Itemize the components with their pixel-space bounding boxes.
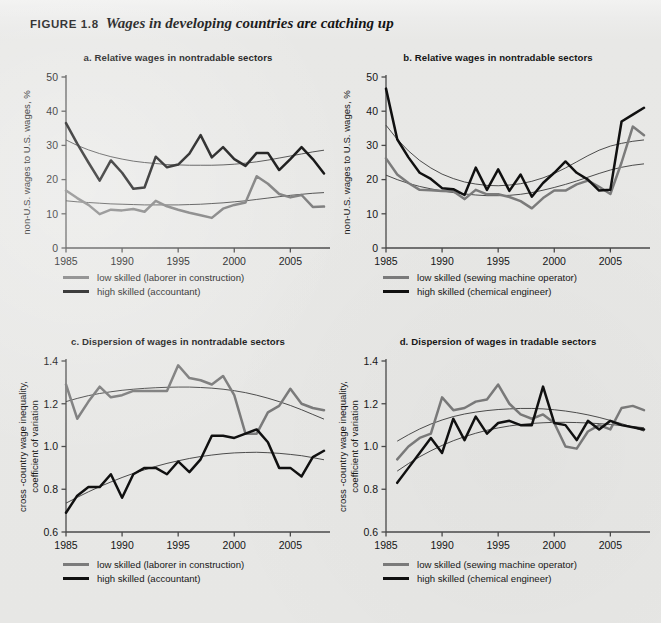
- svg-text:2000: 2000: [543, 539, 567, 551]
- svg-text:1.0: 1.0: [43, 440, 58, 452]
- legend-line-low-icon: [383, 563, 409, 566]
- svg-text:1985: 1985: [54, 255, 78, 267]
- panel-c-plot: 0.60.81.01.21.419851990199520002005cross…: [18, 347, 338, 562]
- svg-text:1990: 1990: [110, 539, 134, 551]
- svg-text:1995: 1995: [166, 539, 190, 551]
- panel-a-plot: 0102030405019851990199520002005non-U.S. …: [18, 63, 338, 278]
- svg-text:0.6: 0.6: [43, 526, 58, 538]
- panel-a: a. Relative wages in nontradable sectors…: [18, 52, 338, 322]
- panel-d-plot: 0.60.81.01.21.419851990199520002005cross…: [338, 347, 658, 562]
- svg-text:1.0: 1.0: [363, 440, 378, 452]
- panel-b-legend: low skilled (sewing machine operator) hi…: [383, 270, 577, 298]
- legend-label-low: low skilled (sewing machine operator): [417, 272, 577, 283]
- svg-text:1985: 1985: [374, 255, 398, 267]
- svg-text:2005: 2005: [279, 255, 303, 267]
- svg-text:10: 10: [46, 208, 58, 220]
- panel-c-legend: low skilled (laborer in construction) hi…: [63, 557, 244, 585]
- legend-line-high-icon: [383, 290, 409, 293]
- svg-text:1985: 1985: [374, 539, 398, 551]
- panel-b-plot: 0102030405019851990199520002005non-U.S. …: [338, 63, 658, 278]
- figure-number: FIGURE 1.8: [30, 18, 99, 30]
- svg-text:40: 40: [366, 105, 378, 117]
- svg-text:10: 10: [366, 208, 378, 220]
- svg-text:50: 50: [366, 71, 378, 83]
- legend-label-low: low skilled (laborer in construction): [97, 272, 244, 283]
- legend-item-high-skilled: high skilled (chemical engineer): [383, 284, 577, 298]
- svg-text:30: 30: [46, 139, 58, 151]
- svg-text:20: 20: [366, 173, 378, 185]
- svg-text:1990: 1990: [430, 539, 454, 551]
- svg-text:0.6: 0.6: [363, 526, 378, 538]
- svg-text:0: 0: [372, 242, 378, 254]
- legend-item-high-skilled: high skilled (accountant): [63, 284, 244, 298]
- panel-a-title: a. Relative wages in nontradable sectors: [18, 52, 338, 63]
- svg-text:non-U.S. wages to U.S. wages,: non-U.S. wages to U.S. wages, %: [21, 90, 32, 235]
- legend-line-high-icon: [63, 577, 89, 580]
- svg-text:1995: 1995: [486, 539, 510, 551]
- svg-text:2005: 2005: [279, 539, 303, 551]
- panel-d-title: d. Dispersion of wages in tradable secto…: [338, 336, 658, 347]
- svg-text:40: 40: [46, 105, 58, 117]
- panel-c: c. Dispersion of wages in nontradable se…: [18, 336, 338, 611]
- legend-line-low-icon: [63, 563, 89, 566]
- legend-line-low-icon: [63, 276, 89, 279]
- svg-text:2000: 2000: [223, 255, 247, 267]
- legend-label-high: high skilled (accountant): [97, 286, 200, 297]
- panel-b: b. Relative wages in nontradable sectors…: [338, 52, 658, 322]
- svg-text:0.8: 0.8: [43, 483, 58, 495]
- svg-text:50: 50: [46, 71, 58, 83]
- legend-line-low-icon: [383, 276, 409, 279]
- legend-item-low-skilled: low skilled (laborer in construction): [63, 557, 244, 571]
- svg-text:1995: 1995: [486, 255, 510, 267]
- figure-header: FIGURE 1.8Wages in developing countries …: [30, 14, 394, 32]
- legend-line-high-icon: [63, 290, 89, 293]
- svg-text:30: 30: [366, 139, 378, 151]
- legend-label-high: high skilled (chemical engineer): [417, 573, 551, 584]
- legend-item-high-skilled: high skilled (accountant): [63, 571, 244, 585]
- svg-text:non-U.S. wages to U.S. wages,: non-U.S. wages to U.S. wages, %: [341, 90, 352, 235]
- legend-item-low-skilled: low skilled (sewing machine operator): [383, 270, 577, 284]
- legend-label-low: low skilled (laborer in construction): [97, 559, 244, 570]
- svg-text:0.8: 0.8: [363, 483, 378, 495]
- svg-text:1.4: 1.4: [363, 355, 378, 367]
- svg-text:coefficient of variation: coefficient of variation: [349, 400, 360, 493]
- svg-text:1990: 1990: [430, 255, 454, 267]
- svg-text:coefficient of variation: coefficient of variation: [29, 400, 40, 493]
- svg-text:1990: 1990: [110, 255, 134, 267]
- svg-text:cross -country wage inequality: cross -country wage inequality,: [18, 381, 28, 512]
- legend-item-low-skilled: low skilled (laborer in construction): [63, 270, 244, 284]
- svg-text:2000: 2000: [543, 255, 567, 267]
- panel-c-title: c. Dispersion of wages in nontradable se…: [18, 336, 338, 347]
- panel-d-legend: low skilled (sewing machine operator) hi…: [383, 557, 577, 585]
- svg-text:cross -country wage inequality: cross -country wage inequality,: [338, 381, 348, 512]
- figure-title: Wages in developing countries are catchi…: [106, 15, 394, 31]
- figure-container: FIGURE 1.8Wages in developing countries …: [0, 0, 661, 623]
- legend-line-high-icon: [383, 577, 409, 580]
- svg-text:2005: 2005: [599, 539, 623, 551]
- legend-item-low-skilled: low skilled (sewing machine operator): [383, 557, 577, 571]
- legend-label-high: high skilled (accountant): [97, 573, 200, 584]
- svg-text:0: 0: [52, 242, 58, 254]
- svg-text:1995: 1995: [166, 255, 190, 267]
- svg-text:1.4: 1.4: [43, 355, 58, 367]
- svg-text:2005: 2005: [599, 255, 623, 267]
- svg-text:1985: 1985: [54, 539, 78, 551]
- panel-a-legend: low skilled (laborer in construction) hi…: [63, 270, 244, 298]
- panel-b-title: b. Relative wages in nontradable sectors: [338, 52, 658, 63]
- svg-text:2000: 2000: [223, 539, 247, 551]
- panel-d: d. Dispersion of wages in tradable secto…: [338, 336, 658, 611]
- svg-text:1.2: 1.2: [43, 398, 58, 410]
- legend-label-low: low skilled (sewing machine operator): [417, 559, 577, 570]
- svg-text:20: 20: [46, 173, 58, 185]
- svg-text:1.2: 1.2: [363, 398, 378, 410]
- legend-item-high-skilled: high skilled (chemical engineer): [383, 571, 577, 585]
- legend-label-high: high skilled (chemical engineer): [417, 286, 551, 297]
